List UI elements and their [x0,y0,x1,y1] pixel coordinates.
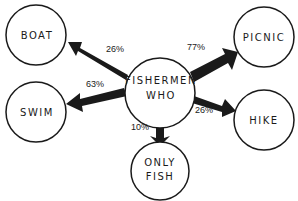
label-hike: HIKE [249,115,278,126]
arrow-swim [66,88,127,112]
percent-hike: 26% [195,105,213,115]
percent-picnic: 77% [187,42,205,52]
label-swim: SWIM [20,107,54,118]
label-center-line2: WHO [146,90,176,101]
label-picnic: PICNIC [243,32,285,43]
percent-boat: 26% [106,44,124,54]
label-only-fish-line2: FISH [146,171,175,182]
fishermen-activity-diagram: BOAT SWIM PICNIC HIKE ONLY FISH FISHERME… [0,0,298,201]
label-center-line1: FISHERMEN [125,75,197,86]
arrow-picnic [190,48,238,82]
percent-swim: 63% [86,79,104,89]
label-boat: BOAT [21,30,54,41]
percent-only-fish: 10% [131,122,149,132]
label-only-fish-line1: ONLY [144,157,176,168]
